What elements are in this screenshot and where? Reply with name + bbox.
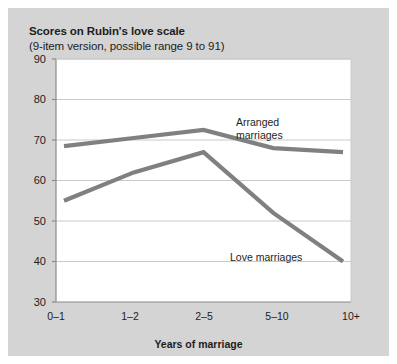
x-axis-title: Years of marriage bbox=[8, 338, 389, 350]
x-tick-label-10plus: 10+ bbox=[321, 311, 381, 322]
chart-figure: Scores on Rubin's love scale (9-item ver… bbox=[8, 8, 389, 356]
y-tick-label-70: 70 bbox=[20, 135, 46, 146]
x-tick-label-1-2: 1–2 bbox=[100, 311, 160, 322]
y-tick-label-90: 90 bbox=[20, 54, 46, 65]
series-annotation-arranged-line1: Arranged bbox=[236, 116, 283, 129]
x-tick-label-0-1: 0–1 bbox=[26, 311, 86, 322]
x-tick-label-2-5: 2–5 bbox=[174, 311, 234, 322]
series-annotation-love-marriages: Love marriages bbox=[230, 251, 302, 264]
y-tick-label-80: 80 bbox=[20, 94, 46, 105]
series-annotation-arranged-marriages: Arranged marriages bbox=[236, 116, 283, 142]
y-tick-label-40: 40 bbox=[20, 256, 46, 267]
y-tick-label-50: 50 bbox=[20, 216, 46, 227]
line-chart-svg bbox=[8, 8, 389, 356]
y-tick-label-60: 60 bbox=[20, 175, 46, 186]
x-tick-label-5-10: 5–10 bbox=[247, 311, 307, 322]
plot-area-wrapper: 90 80 70 60 50 40 30 0–1 1–2 2–5 5–10 10… bbox=[8, 8, 389, 356]
y-tick-label-30: 30 bbox=[20, 297, 46, 308]
series-annotation-arranged-line2: marriages bbox=[236, 129, 283, 142]
